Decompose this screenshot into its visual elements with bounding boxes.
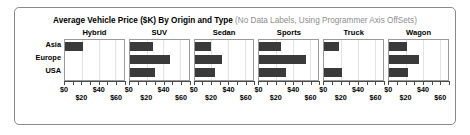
bar-asia [324,42,383,51]
bar-fill [324,42,339,51]
axis-tick [406,81,407,85]
axis-tick [397,81,398,85]
axis-tick [367,81,368,85]
chart-panel: Average Vehicle Price ($K) By Origin and… [14,7,456,125]
axis-tick [302,81,303,85]
axis-tick [73,81,74,85]
axis-tick-label: $60 [110,94,122,102]
panel-title-sedan: Sedan [194,28,255,38]
chart-panel-truck: Truck$0$20$40$60 [323,28,384,122]
bar-asia [65,42,124,51]
x-axis-sports: $0$20$40$60 [258,81,319,121]
chart-panel-hybrid: Hybrid$0$20$40$60 [64,28,125,122]
panel-plot-sports [258,39,319,81]
axis-tick [311,81,312,85]
bar-fill [389,68,407,77]
bar-europe [389,55,448,64]
bar-fill [195,55,223,64]
x-axis-suv: $0$20$40$60 [129,81,190,121]
bar-usa [130,68,189,77]
panel-title-wagon: Wagon [388,28,449,38]
bar-fill [389,55,418,64]
axis-tick-label: $40 [287,86,299,94]
axis-tick-label: $0 [125,86,133,94]
bar-asia [195,42,254,51]
axis-tick-label: $20 [400,94,412,102]
panel-plot-wagon [388,39,449,81]
axis-tick-label: $0 [384,86,392,94]
bar-asia [259,42,318,51]
axis-tick [341,81,342,85]
panel-title-sports: Sports [258,28,319,38]
axis-tick [155,81,156,85]
axis-tick [449,81,450,85]
axis-tick-label: $60 [369,94,381,102]
panel-plot-sedan [194,39,255,81]
panel-title-suv: SUV [129,28,190,38]
plot-area: Asia Europe USA Hybrid$0$20$40$60SUV$0$2… [23,28,449,120]
bar-asia [130,42,189,51]
chart-panel-wagon: Wagon$0$20$40$60 [388,28,449,122]
axis-tick [116,81,117,85]
chart-title: Average Vehicle Price ($K) By Origin and… [15,16,455,26]
axis-tick-label: $40 [352,86,364,94]
axis-tick-label: $20 [270,94,282,102]
panel-plot-suv [129,39,190,81]
y-axis-labels: Asia Europe USA [23,39,64,81]
axis-tick-label: $40 [417,86,429,94]
bar-fill [195,42,211,51]
x-axis-wagon: $0$20$40$60 [388,81,449,121]
chart-panel-suv: SUV$0$20$40$60 [129,28,190,122]
chart-panel-sports: Sports$0$20$40$60 [258,28,319,122]
bar-fill [65,42,83,51]
panel-title-hybrid: Hybrid [64,28,125,38]
axis-tick-label: $0 [190,86,198,94]
bar-usa [195,68,254,77]
bar-usa [324,68,383,77]
axis-tick-label: $40 [222,86,234,94]
axis-tick [375,81,376,85]
axis-tick-label: $60 [434,94,446,102]
axis-tick-label: $0 [319,86,327,94]
chart-title-subtitle: (No Data Labels, Using Programmer Axis O… [235,16,417,25]
axis-tick [181,81,182,85]
bar-usa [389,68,448,77]
axis-tick [211,81,212,85]
axis-tick [81,81,82,85]
panel-plot-truck [323,39,384,81]
axis-tick [267,81,268,85]
panel-row: Asia Europe USA Hybrid$0$20$40$60SUV$0$2… [23,28,449,122]
bar-fill [130,55,170,64]
axis-tick [146,81,147,85]
bar-europe [195,55,254,64]
bar-usa [259,68,318,77]
panel-title-truck: Truck [323,28,384,38]
axis-tick [107,81,108,85]
axis-tick [246,81,247,85]
y-axis-label-europe: Europe [36,53,61,62]
chart-title-main: Average Vehicle Price ($K) By Origin and… [53,16,233,25]
chart-panel-sedan: Sedan$0$20$40$60 [194,28,255,122]
axis-tick-label: $0 [254,86,262,94]
bar-europe [130,55,189,64]
axis-tick-label: $60 [240,94,252,102]
axis-tick [414,81,415,85]
bar-europe [259,55,318,64]
axis-tick [220,81,221,85]
axis-tick [202,81,203,85]
bar-fill [259,55,305,64]
axis-tick-label: $20 [140,94,152,102]
bar-fill [130,68,155,77]
bar-fill [324,68,342,77]
bar-asia [389,42,448,51]
bar-fill [130,42,154,51]
axis-tick-label: $0 [60,86,68,94]
axis-tick [349,81,350,85]
axis-tick [440,81,441,85]
axis-tick [237,81,238,85]
x-axis-sedan: $0$20$40$60 [194,81,255,121]
axis-tick [276,81,277,85]
axis-tick-label: $60 [305,94,317,102]
bar-fill [259,68,286,77]
axis-tick-label: $40 [158,86,170,94]
